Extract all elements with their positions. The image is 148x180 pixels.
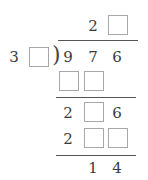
subtraction-line-1: [56, 97, 136, 98]
step2-product-digit-hundreds: 2: [61, 132, 75, 147]
step2-digit-hundreds: 2: [61, 106, 75, 121]
step2-digit-ones: 6: [110, 106, 124, 121]
subtraction-line-2: [56, 155, 136, 156]
dividend-digit-tens: 7: [86, 50, 100, 65]
quotient-digit-tens: 2: [86, 19, 100, 34]
division-vinculum: [58, 40, 138, 41]
step1-product-tens-blank[interactable]: [84, 71, 104, 91]
step1-product-hundreds-blank[interactable]: [59, 71, 79, 91]
quotient-ones-blank[interactable]: [108, 15, 128, 35]
divisor-digit-tens: 3: [7, 50, 21, 65]
dividend-digit-ones: 6: [110, 50, 124, 65]
division-bracket: ): [52, 44, 61, 66]
step2-tens-blank[interactable]: [84, 102, 104, 122]
divisor-ones-blank[interactable]: [29, 47, 49, 67]
dividend-digit-hundreds: 9: [61, 50, 75, 65]
step2-product-ones-blank[interactable]: [108, 128, 128, 148]
remainder-digit-tens: 1: [86, 161, 100, 176]
remainder-digit-ones: 4: [110, 161, 124, 176]
step2-product-tens-blank[interactable]: [84, 128, 104, 148]
